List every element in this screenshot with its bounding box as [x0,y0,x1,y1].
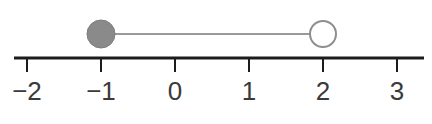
endpoint-open-marker [310,21,336,47]
axis-ticks [27,58,397,72]
interval-group [87,20,336,48]
number-line-plot: −2−10123 [0,0,432,124]
axis-tick-label: 0 [168,76,182,106]
axis-tick-label: 1 [242,76,256,106]
endpoint-closed-marker [87,20,115,48]
axis-tick-label: 3 [390,76,404,106]
number-line-figure: −2−10123 [0,0,432,124]
axis-tick-labels: −2−10123 [12,76,404,106]
axis-tick-label: −1 [86,76,116,106]
axis-group: −2−10123 [12,58,424,106]
axis-tick-label: −2 [12,76,42,106]
axis-tick-label: 2 [316,76,330,106]
